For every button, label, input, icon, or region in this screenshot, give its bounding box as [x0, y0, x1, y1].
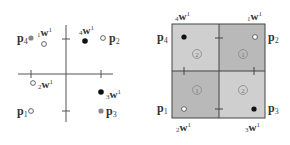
svg-text:3w1: 3w1: [245, 121, 260, 134]
svg-text:p3: p3: [268, 101, 279, 116]
svg-text:p4: p4: [157, 30, 168, 45]
svg-text:1w1: 1w1: [247, 10, 262, 23]
svg-text:p2: p2: [109, 31, 120, 46]
point-label-p3: p3: [268, 101, 279, 116]
open-circle-icon: [182, 107, 187, 112]
svg-text:1: 1: [241, 51, 245, 59]
filled-dot-icon: [181, 34, 186, 39]
svg-text:p2: p2: [268, 30, 279, 45]
open-circle-icon: [253, 35, 258, 40]
svg-text:2: 2: [195, 51, 199, 59]
open-circle-icon: [29, 109, 34, 114]
svg-text:p1: p1: [17, 104, 28, 119]
open-circle-icon: [101, 36, 106, 41]
svg-text:p4: p4: [17, 31, 28, 46]
point-p1: p1: [17, 104, 33, 119]
weight-3w1: 3w1: [98, 88, 121, 101]
open-circle-icon: [42, 42, 47, 47]
weight-label-4w1: 4w1: [175, 10, 190, 23]
left-plot: p4 1w1 4w1 p2 2w1 3w1 p1: [17, 24, 121, 122]
gray-dot-icon: [98, 108, 103, 113]
point-p3: p3: [98, 104, 116, 119]
svg-text:3w1: 3w1: [106, 88, 121, 101]
point-p4: p4: [17, 31, 34, 46]
point-label-p2: p2: [268, 30, 279, 45]
quadrant-top-left: [172, 24, 219, 71]
svg-text:2w1: 2w1: [38, 78, 53, 91]
svg-text:1: 1: [195, 87, 199, 95]
weight-label-2w1: 2w1: [176, 121, 191, 134]
point-label-p4: p4: [157, 30, 168, 45]
point-label-p1: p1: [157, 101, 168, 116]
svg-text:2w1: 2w1: [176, 121, 191, 134]
svg-text:p3: p3: [106, 104, 117, 119]
quadrant-top-right: [219, 24, 265, 71]
svg-text:4w1: 4w1: [175, 10, 190, 23]
svg-text:4w1: 4w1: [79, 24, 94, 37]
weight-4w1: 4w1: [79, 24, 94, 44]
filled-dot-icon: [82, 38, 88, 44]
right-plot: 2 1 1 2 4w1 1w1 2w1 3w1: [157, 10, 279, 134]
svg-text:2: 2: [241, 87, 245, 95]
open-circle-icon: [31, 81, 36, 86]
filled-dot-icon: [98, 89, 104, 95]
weight-1w1: 1w1: [37, 26, 52, 46]
weight-2w1: 2w1: [31, 78, 54, 91]
weight-label-1w1: 1w1: [247, 10, 262, 23]
svg-text:p1: p1: [157, 101, 168, 116]
point-p2: p2: [101, 31, 120, 46]
svg-text:1w1: 1w1: [37, 26, 52, 39]
weight-label-3w1: 3w1: [245, 121, 260, 134]
filled-dot-icon: [251, 106, 256, 111]
gray-dot-icon: [28, 35, 33, 40]
